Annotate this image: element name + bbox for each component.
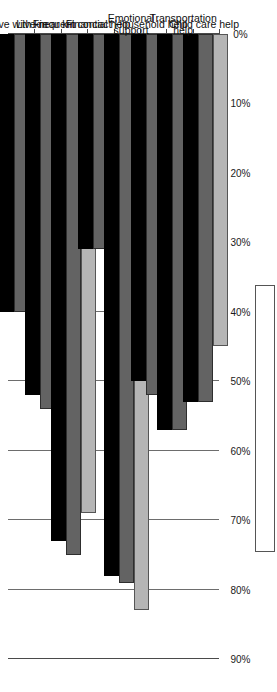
value-tick-label: 40% — [224, 306, 258, 317]
bar — [213, 34, 228, 347]
gridline — [8, 658, 219, 659]
category-label: Child care help — [156, 18, 252, 30]
plot-wrapper: 90%80%70%60%50%40%30%20%10%0% Live with … — [0, 0, 277, 692]
legend-box — [255, 285, 275, 552]
gridline — [8, 589, 219, 590]
value-tick-label: 80% — [224, 584, 258, 595]
chart-figure: 90%80%70%60%50%40%30%20%10%0% Live with … — [0, 0, 277, 692]
bar — [0, 34, 14, 312]
value-tick-label: 50% — [224, 376, 258, 387]
bar — [157, 34, 172, 430]
bar — [198, 34, 213, 402]
value-tick-label: 30% — [224, 237, 258, 248]
bar — [104, 34, 119, 576]
bar — [78, 34, 93, 249]
value-tick-label: 60% — [224, 445, 258, 456]
bar — [131, 34, 146, 381]
bar — [25, 34, 40, 395]
value-tick-label: 90% — [224, 654, 258, 665]
value-tick-label: 70% — [224, 515, 258, 526]
value-tick-label: 10% — [224, 98, 258, 109]
bar — [51, 34, 66, 541]
value-tick-label: 20% — [224, 167, 258, 178]
bar — [183, 34, 198, 402]
